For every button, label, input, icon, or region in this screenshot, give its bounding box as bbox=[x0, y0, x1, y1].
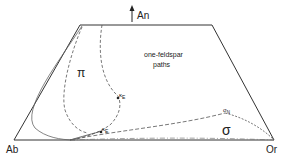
pi-boundary-outer bbox=[32, 26, 82, 140]
kappa-upper-label: κE bbox=[119, 92, 126, 100]
or-label: Or bbox=[266, 144, 278, 155]
ab-label: Ab bbox=[6, 144, 19, 155]
pi-boundary-dashed bbox=[64, 27, 88, 133]
sigma-label: σ bbox=[222, 122, 231, 138]
region-text-line1: one-feldspar bbox=[144, 51, 184, 59]
apex-label: An bbox=[137, 10, 149, 21]
region-text-line2: paths bbox=[153, 61, 171, 69]
ternary-diagram: An Ab Or one-feldspar paths π σ κE κE σN bbox=[0, 0, 283, 160]
kappa-lower-label: κE bbox=[102, 126, 109, 134]
pi-label: π bbox=[77, 66, 85, 80]
arrow-head-icon bbox=[130, 5, 135, 11]
sigma-path-dashed bbox=[70, 113, 225, 140]
trapezoid-outline bbox=[14, 25, 274, 140]
kappa-upper-path bbox=[70, 25, 120, 140]
